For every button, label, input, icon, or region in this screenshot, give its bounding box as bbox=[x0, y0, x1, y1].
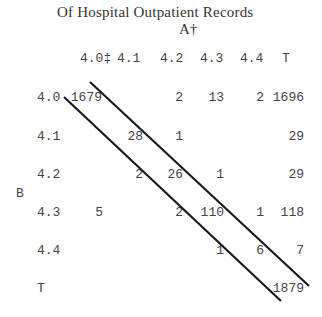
diagonal-line-lower bbox=[64, 97, 281, 301]
diagonal-line-upper bbox=[90, 82, 309, 286]
diagonal-agreement-lines bbox=[0, 0, 322, 317]
